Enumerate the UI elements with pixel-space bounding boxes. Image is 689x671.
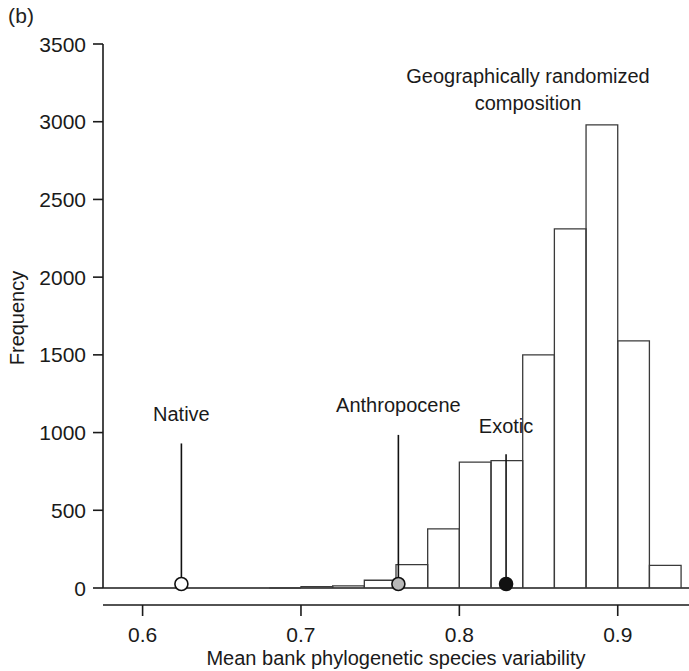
- figure-panel-b: (b) 0500100015002000250030003500 0.60.70…: [0, 0, 689, 671]
- histogram-bar: [554, 229, 586, 588]
- y-tick-label: 1000: [39, 421, 86, 444]
- y-tick-label: 1500: [39, 343, 86, 366]
- x-tick-label: 0.7: [286, 623, 315, 646]
- y-tick-label: 3500: [39, 33, 86, 56]
- x-axis-ticks: [143, 605, 618, 616]
- y-tick-label: 500: [51, 499, 86, 522]
- histogram-bar: [523, 355, 555, 588]
- marker-label-native: Native: [153, 403, 210, 425]
- reference-markers: [175, 435, 513, 591]
- y-axis-title: Frequency: [6, 271, 28, 366]
- annotation-line-1: Geographically randomized: [406, 65, 649, 87]
- marker-anthropocene: [392, 578, 405, 591]
- histogram-plot: 0500100015002000250030003500 0.60.70.80.…: [0, 0, 689, 671]
- x-tick-label: 0.8: [445, 623, 474, 646]
- marker-native: [175, 578, 188, 591]
- histogram-bar: [618, 341, 650, 588]
- x-axis-title: Mean bank phylogenetic species variabili…: [206, 647, 585, 669]
- annotation-line-2: composition: [475, 92, 582, 114]
- reference-marker-labels: NativeAnthropoceneExotic: [153, 394, 533, 436]
- y-tick-label: 0: [74, 577, 86, 600]
- y-axis-tick-labels: 0500100015002000250030003500: [39, 33, 86, 600]
- histogram-bar: [428, 529, 460, 588]
- marker-exotic: [500, 578, 513, 591]
- histogram-bar: [586, 125, 618, 588]
- x-tick-label: 0.9: [603, 623, 632, 646]
- y-tick-label: 2500: [39, 188, 86, 211]
- x-axis-tick-labels: 0.60.70.80.9: [128, 623, 632, 646]
- marker-label-anthropocene: Anthropocene: [336, 394, 461, 416]
- histogram-bars: [269, 125, 681, 588]
- marker-label-exotic: Exotic: [479, 415, 533, 437]
- y-tick-label: 2000: [39, 266, 86, 289]
- x-tick-label: 0.6: [128, 623, 157, 646]
- y-axis-ticks: [93, 44, 103, 588]
- y-tick-label: 3000: [39, 110, 86, 133]
- histogram-bar: [459, 462, 491, 588]
- histogram-bar: [649, 565, 681, 588]
